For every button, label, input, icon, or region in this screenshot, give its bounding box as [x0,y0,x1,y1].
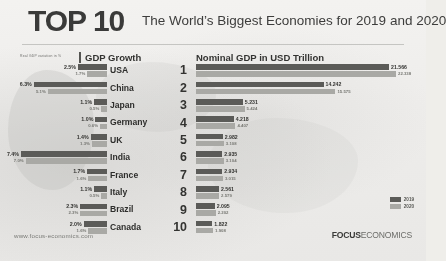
gdp-growth-bars: 1.4%1.3% [0,133,107,150]
growth-bar-2020 [92,141,107,147]
country-rank: 5 [163,133,187,147]
growth-bar-2019 [84,221,107,227]
legend-swatch-2020 [390,204,401,209]
growth-bar-2019 [94,99,107,105]
nominal-gdp-bars: 14.24215.575 [196,80,422,97]
growth-bar-2020 [101,106,107,112]
growth-value-2020: 5.1% [36,89,46,94]
growth-value-2020: 7.0% [14,158,24,163]
growth-value-2019: 6.3% [20,81,32,87]
growth-bar-2019 [87,169,107,175]
nominal-value-2020: 2.579 [221,193,232,198]
nominal-value-2020: 15.575 [337,89,350,94]
nominal-bar-2019 [196,221,212,227]
growth-bar-2020 [26,158,107,164]
country-rank: 7 [163,168,187,182]
growth-bar-2019 [91,134,107,140]
gdp-growth-bars: 2.3%2.3% [0,202,107,219]
growth-bar-2020 [100,124,107,130]
brand-bold: FOCUS [332,230,361,240]
header: TOP 10 The World’s Biggest Economies for… [0,0,426,47]
nominal-value-2020: 3.104 [226,158,237,163]
nominal-value-2020: 4.407 [237,123,248,128]
nominal-value-2019: 5.231 [245,99,258,105]
gdp-growth-bars: 1.1%0.5% [0,185,107,202]
country-name: Canada [110,222,141,232]
country-row: 1.7%1.6%France72.9343.015 [0,167,426,184]
nominal-bar-2020 [196,193,219,199]
growth-value-2019: 1.7% [73,168,85,174]
growth-bar-2020 [80,211,107,217]
country-rank: 3 [163,98,187,112]
header-divider [22,44,404,45]
country-name: Italy [110,187,127,197]
nominal-bar-2020 [196,89,335,95]
gdp-growth-bars: 1.7%1.6% [0,167,107,184]
nominal-value-2019: 4.218 [236,116,249,122]
growth-bar-2019 [21,151,107,157]
country-row: 2.3%2.3%Brazil92.0952.202 [0,202,426,219]
growth-value-2019: 7.4% [7,151,19,157]
page-title: TOP 10 [28,6,124,36]
nominal-bar-2019 [196,186,219,192]
nominal-gdp-bars: 4.2184.407 [196,115,422,132]
country-row: 7.4%7.0%India62.9353.104 [0,150,426,167]
nominal-value-2020: 3.015 [225,176,236,181]
growth-value-2019: 1.0% [81,116,93,122]
nominal-value-2019: 2.982 [225,134,238,140]
nominal-bar-2020 [196,106,245,112]
country-row: 6.3%5.1%China214.24215.575 [0,80,426,97]
growth-bar-2019 [34,82,107,88]
nominal-value-2019: 14.242 [326,81,342,87]
nominal-gdp-bars: 2.9343.015 [196,167,422,184]
country-row: 1.4%1.3%UK52.9823.108 [0,133,426,150]
gdp-growth-bars: 1.0%0.6% [0,115,107,132]
country-name: USA [110,65,128,75]
growth-bar-2020 [48,89,107,95]
growth-bar-2019 [78,64,107,70]
growth-value-2020: 1.7% [75,71,85,76]
nominal-gdp-column-header: Nominal GDP in USD Trillion [196,52,324,63]
nominal-value-2019: 2.935 [224,151,237,157]
page-subtitle: The World’s Biggest Economies for 2019 a… [142,13,446,28]
growth-bar-2020 [88,176,107,182]
growth-value-2020: 1.6% [77,176,87,181]
nominal-bar-2019 [196,64,389,70]
nominal-bar-2019 [196,151,222,157]
growth-value-2020: 2.3% [68,210,78,215]
website-url: www.focus-economics.com [14,232,93,239]
growth-bar-2020 [101,193,107,199]
country-rank: 8 [163,185,187,199]
nominal-bar-2019 [196,116,234,122]
country-row: 2.5%1.7%USA121.56622.338 [0,63,426,80]
country-name: India [110,152,130,162]
brand-light: ECONOMICS [361,230,412,240]
legend-item: 2019 [390,197,414,202]
nominal-value-2019: 2.934 [224,168,237,174]
gdp-growth-column-header: GDP Growth [79,52,141,63]
country-rank: 6 [163,150,187,164]
nominal-value-2020: 3.108 [226,141,237,146]
gdp-growth-bars: 6.3%5.1% [0,80,107,97]
nominal-bar-2020 [196,176,223,182]
legend-label-2020: 2020 [404,204,414,209]
nominal-value-2019: 2.561 [221,186,234,192]
nominal-gdp-bars: 2.0952.202 [196,202,422,219]
gdp-growth-bars: 7.4%7.0% [0,150,107,167]
country-name: Japan [110,100,135,110]
legend-label-2019: 2019 [404,197,414,202]
country-rank: 9 [163,203,187,217]
growth-value-2020: 0.5% [89,193,99,198]
nominal-gdp-bars: 2.9353.104 [196,150,422,167]
growth-value-2019: 2.5% [64,64,76,70]
country-rank: 4 [163,116,187,130]
country-name: China [110,83,134,93]
nominal-value-2020: 2.202 [218,210,229,215]
gdp-growth-bars: 2.5%1.7% [0,63,107,80]
growth-value-2020: 0.6% [88,123,98,128]
legend-item: 2020 [390,204,414,209]
country-row: 1.1%0.5%Italy82.5612.579 [0,185,426,202]
nominal-bar-2019 [196,203,215,209]
growth-bar-2019 [94,186,107,192]
